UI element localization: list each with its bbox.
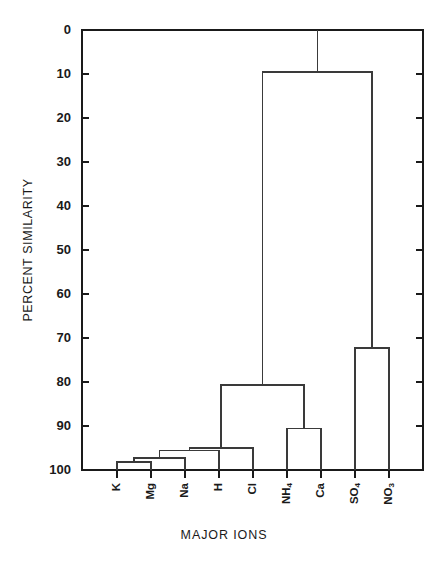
dendrogram-links [117, 30, 389, 470]
x-axis-label: MAJOR IONS [0, 528, 448, 542]
leaf-label-na: Na [178, 482, 190, 497]
dendrogram-link [355, 348, 389, 470]
dendrogram-link [221, 385, 304, 448]
dendrogram-link [189, 448, 253, 470]
leaf-label-text: NO3 [382, 482, 396, 504]
dendrogram-plot: 0102030405060708090100 KMgNaHClNH4CaSO4N… [0, 0, 448, 525]
leaf-label-ca: Ca [314, 482, 326, 497]
y-tick-label: 30 [57, 154, 71, 169]
y-tick-label: 20 [57, 110, 71, 125]
dendrogram-link [263, 72, 372, 385]
dendrogram-link [117, 462, 151, 470]
leaf-label-text: Cl [246, 483, 258, 495]
leaf-label-no3: NO3 [382, 482, 396, 504]
y-tick-group: 0102030405060708090100 [49, 22, 423, 477]
y-tick-label: 60 [57, 286, 71, 301]
y-tick-label: 90 [57, 418, 71, 433]
leaf-label-mg: Mg [144, 483, 156, 500]
y-tick-label: 50 [57, 242, 71, 257]
leaf-label-cl: Cl [246, 483, 258, 495]
y-tick-label: 40 [57, 198, 71, 213]
leaf-label-group: KMgNaHClNH4CaSO4NO3 [110, 482, 396, 504]
dendrogram-link [160, 450, 220, 470]
leaf-label-text: H [212, 483, 224, 491]
leaf-label-h: H [212, 483, 224, 491]
y-tick-label: 80 [57, 374, 71, 389]
y-tick-label: 70 [57, 330, 71, 345]
leaf-label-k: K [110, 482, 122, 491]
leaf-label-so4: SO4 [348, 482, 362, 504]
dendrogram-figure: PERCENT SIMILARITY 010203040506070809010… [0, 0, 448, 565]
dendrogram-link [287, 428, 321, 470]
y-tick-label: 100 [49, 462, 71, 477]
y-tick-label: 10 [57, 66, 71, 81]
leaf-label-nh4: NH4 [280, 482, 294, 504]
x-tick-group [117, 470, 389, 478]
y-tick-label: 0 [64, 22, 71, 37]
leaf-label-text: Na [178, 482, 190, 497]
leaf-label-text: K [110, 482, 122, 491]
leaf-label-text: SO4 [348, 482, 362, 504]
leaf-label-text: Ca [314, 482, 326, 497]
leaf-label-text: Mg [144, 483, 156, 500]
leaf-label-text: NH4 [280, 482, 294, 504]
dendrogram-link [134, 458, 185, 470]
